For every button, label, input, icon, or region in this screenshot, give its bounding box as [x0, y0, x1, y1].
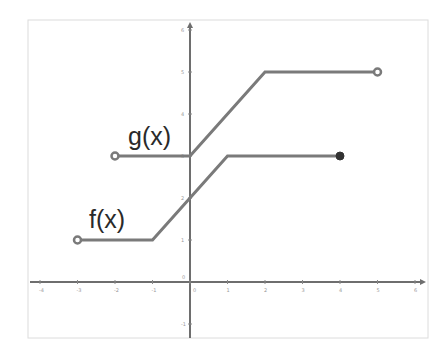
x-tick-label: -3 [77, 287, 82, 293]
x-tick-label: 1 [227, 287, 230, 293]
f-open-endpoint [74, 237, 81, 244]
x-tick-label: -4 [39, 287, 44, 293]
y-tick-label: 4 [181, 111, 184, 117]
x-tick-label: -1 [152, 287, 157, 293]
x-tick-label: 3 [302, 287, 305, 293]
x-tick-label: 5 [377, 287, 380, 293]
f-closed-endpoint [336, 152, 344, 160]
x-tick-label: 4 [339, 287, 342, 293]
y-tick-label: 0 [182, 274, 185, 280]
y-tick-label: 5 [181, 69, 184, 75]
g-open-endpoint [112, 153, 119, 160]
g-open-endpoint [374, 69, 381, 76]
graph: -4-3-2-10123456 -10123456 f(x) g(x) [0, 0, 444, 355]
y-tick-label: -1 [181, 321, 186, 327]
f-label: f(x) [89, 205, 125, 233]
y-tick-label: 1 [181, 237, 184, 243]
x-tick-label: 0 [193, 287, 196, 293]
y-tick-label: 2 [181, 195, 184, 201]
y-tick-label: 6 [181, 27, 184, 33]
x-tick-label: 6 [414, 287, 417, 293]
x-tick-label: -2 [114, 287, 119, 293]
x-tick-label: 2 [264, 287, 267, 293]
g-label: g(x) [128, 122, 171, 150]
